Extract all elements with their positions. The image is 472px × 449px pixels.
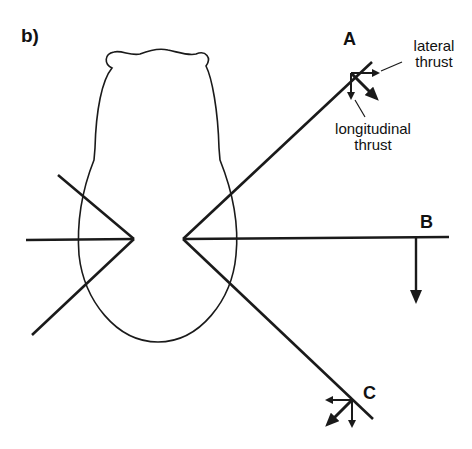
longitudinal-thrust-label: longitudinal thrust <box>320 121 426 153</box>
vectors-a <box>351 62 402 117</box>
vectors-c <box>327 400 352 426</box>
lateral-line1: lateral <box>402 38 466 54</box>
point-label-b: B <box>420 213 433 231</box>
lateral-line2: thrust <box>402 54 466 70</box>
longitudinal-line2: thrust <box>320 137 426 153</box>
point-label-a: A <box>343 30 356 48</box>
line-b <box>183 237 449 239</box>
right-thrust-lines <box>183 62 449 419</box>
lateral-thrust-label: lateral thrust <box>402 38 466 70</box>
diagram-canvas: b) A B C lateral thrust longitudinal thr… <box>0 0 472 449</box>
line-c <box>183 239 373 419</box>
point-label-c: C <box>363 384 376 402</box>
left-thrust-lines <box>26 175 134 335</box>
body-outline <box>78 49 236 342</box>
panel-label: b) <box>21 26 39 45</box>
longitudinal-line1: longitudinal <box>320 121 426 137</box>
